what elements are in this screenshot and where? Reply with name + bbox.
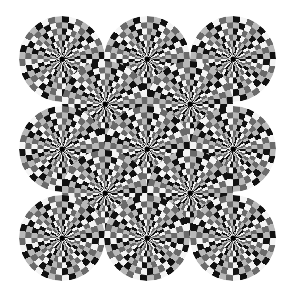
wheel (190, 195, 276, 281)
wheel-center-dot (60, 57, 65, 62)
wheel (104, 195, 190, 281)
wheel-center-dot (60, 236, 65, 241)
wheel-center-dot (145, 236, 150, 241)
wheel-center-dot (145, 147, 150, 152)
wheel-center-dot (188, 102, 193, 107)
wheel-center-dot (60, 147, 65, 152)
illusion-canvas: Rotating snakes optical illusion (0, 0, 290, 299)
wheel-center-dot (145, 57, 150, 62)
wheel-center-dot (231, 57, 236, 62)
wheel-center-dot (103, 102, 108, 107)
wheel-center-dot (231, 236, 236, 241)
wheel (19, 195, 105, 281)
wheel-center-dot (231, 147, 236, 152)
wheel-center-dot (103, 191, 108, 196)
wheel-center-dot (188, 191, 193, 196)
